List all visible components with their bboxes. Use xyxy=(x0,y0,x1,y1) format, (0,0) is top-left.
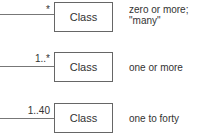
description-line: "many" xyxy=(129,15,188,26)
association-line xyxy=(0,66,54,67)
description: one or more xyxy=(129,62,183,73)
class-label: Class xyxy=(70,61,98,73)
description: zero or more; "many" xyxy=(129,4,188,26)
class-label: Class xyxy=(70,112,98,124)
description-line: zero or more; xyxy=(129,4,188,15)
class-box: Class xyxy=(54,52,113,82)
multiplicity-label: 1..40 xyxy=(0,105,50,116)
class-box: Class xyxy=(54,103,113,133)
description-line: one or more xyxy=(129,62,183,73)
multiplicity-label: 1..* xyxy=(0,53,50,64)
class-box: Class xyxy=(54,2,113,32)
multiplicity-label: * xyxy=(0,4,50,15)
class-label: Class xyxy=(70,11,98,23)
description: one to forty xyxy=(129,113,179,124)
description-line: one to forty xyxy=(129,113,179,124)
association-line xyxy=(0,118,54,119)
